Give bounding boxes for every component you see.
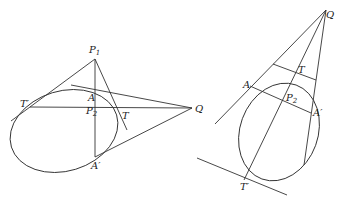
label-left-p2: P2: [85, 105, 98, 118]
right-ellipse: [225, 72, 332, 193]
left-line-tprime-q: [30, 107, 192, 108]
right-chord-a-aprime: [250, 86, 311, 113]
left-figure: P1 A T′ P2 T Q A′: [0, 44, 203, 185]
label-right-t: T: [298, 64, 306, 75]
right-tangent-q-a: [215, 10, 326, 124]
label-right-p2: P2: [285, 92, 298, 105]
label-right-tprime: T′: [240, 181, 250, 192]
left-ellipse: [0, 77, 128, 186]
right-tangent-t: [273, 64, 316, 80]
label-left-t: T: [122, 110, 130, 121]
label-left-tprime: T′: [20, 98, 30, 109]
diagram-canvas: P1 A T′ P2 T Q A′ Q T A P2 A′ T′: [0, 0, 343, 203]
label-right-q: Q: [326, 9, 334, 20]
left-tangent-aprime-q: [95, 108, 192, 157]
label-left-a: A: [87, 92, 95, 103]
label-left-p1: P1: [88, 44, 100, 57]
label-right-a: A: [242, 79, 250, 90]
label-left-q: Q: [195, 103, 203, 114]
label-left-aprime: A′: [90, 160, 101, 171]
right-figure: Q T A P2 A′ T′: [197, 9, 334, 195]
label-right-aprime: A′: [312, 107, 323, 118]
